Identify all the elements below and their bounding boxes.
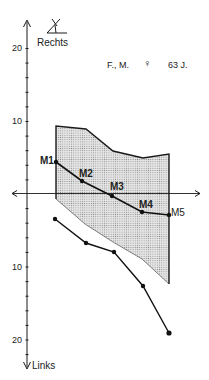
age-label: 63 J.: [168, 60, 188, 70]
direction-up-label: Rechts: [37, 38, 68, 48]
measurement-label-m4: M4: [139, 200, 153, 210]
measurement-label-m1: M1: [40, 156, 54, 166]
angle-symbol-icon: [47, 19, 67, 33]
chart: [0, 0, 209, 380]
measurement-label-m5: M5: [171, 208, 185, 218]
measurement-label-m2: M2: [79, 169, 93, 179]
tick-label-up-10: 10: [2, 116, 22, 126]
patient-name: F., M.: [107, 60, 129, 70]
measurement-label-m3: M3: [110, 182, 124, 192]
sex-symbol-icon: ♀: [143, 58, 151, 68]
tick-label-down-10: 10: [2, 262, 22, 272]
direction-down-label: Links: [32, 361, 55, 371]
tick-label-down-20: 20: [2, 335, 22, 345]
tick-label-up-20: 20: [2, 43, 22, 53]
